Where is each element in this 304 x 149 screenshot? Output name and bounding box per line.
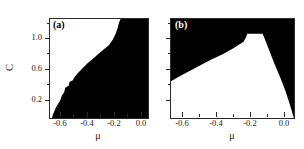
figure-root: (a) -0.6 -0.4 -0.2 0.0 1.0 0.6 0.2 μ C xyxy=(0,0,304,149)
panel-a-tag: (a) xyxy=(53,19,65,30)
panel-b-xtick-minor-2 xyxy=(267,114,268,117)
panel-a-black-phase xyxy=(50,19,148,118)
panel-b-xtick-1 xyxy=(216,112,217,117)
panel-a-xtick-3 xyxy=(141,112,142,117)
panel-b-xtick-0 xyxy=(182,112,183,117)
panel-a-ytick-minor-0 xyxy=(47,53,50,54)
panel-a-ytick-0 xyxy=(45,38,50,39)
panel-a-ytick-minor-2 xyxy=(47,23,50,24)
panel-a-yticklabel-2: 0.2 xyxy=(16,95,42,104)
panel-a-xaxis-title: μ xyxy=(78,130,118,141)
panel-b-ytick-2 xyxy=(166,100,171,101)
panel-b-ytick-1 xyxy=(166,69,171,70)
panel-a-xtick-2 xyxy=(114,112,115,117)
panel-a-plot-area xyxy=(49,18,149,119)
panel-b-xtick-minor-1 xyxy=(233,114,234,117)
panel-b-ytick-minor-2 xyxy=(168,23,171,24)
panel-b-xtick-3 xyxy=(284,112,285,117)
panel-a-yticklabel-1: 0.6 xyxy=(16,64,42,73)
panel-b-xtick-minor-0 xyxy=(199,114,200,117)
panel-b-ytick-minor-0 xyxy=(168,53,171,54)
panel-a-xtick-minor-0 xyxy=(73,114,74,117)
panel-b-xticklabel-3: 0.0 xyxy=(269,119,299,128)
panel-a-xtick-minor-1 xyxy=(100,114,101,117)
panel-b-phase-map xyxy=(171,19,294,118)
panel-b-xticklabel-2: -0.2 xyxy=(235,119,265,128)
panel-a-ytick-2 xyxy=(45,100,50,101)
panel-b-plot-area xyxy=(170,18,295,119)
panel-b-xticklabel-1: -0.4 xyxy=(201,119,231,128)
panel-a-xticklabel-1: -0.4 xyxy=(72,119,102,128)
panel-b-xtick-2 xyxy=(250,112,251,117)
panel-a-xtick-0 xyxy=(60,112,61,117)
panel-a-yticklabel-0: 1.0 xyxy=(16,33,42,42)
panel-a-xticklabel-3: 0.0 xyxy=(126,119,156,128)
panel-a-ytick-minor-1 xyxy=(47,84,50,85)
panel-a-xticklabel-2: -0.2 xyxy=(99,119,129,128)
panel-a-xtick-1 xyxy=(87,112,88,117)
panel-b-xaxis-title: μ xyxy=(212,130,252,141)
panel-a-xtick-minor-2 xyxy=(127,114,128,117)
panel-a-ytick-1 xyxy=(45,69,50,70)
panel-b-xticklabel-0: -0.6 xyxy=(167,119,197,128)
panel-b-ytick-minor-1 xyxy=(168,84,171,85)
panel-a-yaxis-title: C xyxy=(4,57,15,79)
panel-a-phase-map xyxy=(50,19,148,118)
panel-a-xticklabel-0: -0.6 xyxy=(45,119,75,128)
panel-b-tag: (b) xyxy=(175,19,187,30)
panel-b-ytick-0 xyxy=(166,38,171,39)
